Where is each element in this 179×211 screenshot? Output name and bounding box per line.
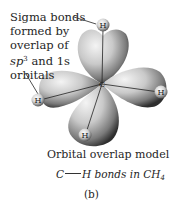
orbital-overlap-figure: H H H H C Sigma bonds formed by overlap … (0, 0, 179, 211)
bond-dash-icon (65, 173, 81, 174)
sigma-bond-annotation: Sigma bonds formed by overlap of sp3 and… (10, 10, 85, 82)
hydrogen-label-left: H (35, 96, 42, 105)
hydrogen-label-right: H (158, 88, 165, 97)
annotation-line-4-suffix: and 1s (28, 54, 70, 68)
panel-label: (b) (84, 188, 179, 200)
bond-description: H bonds in CH (82, 168, 160, 180)
carbon-label: C (99, 80, 105, 89)
bond-atom-c: C (56, 168, 64, 180)
annotation-line-4: sp3 and 1s (10, 52, 85, 68)
sp-term: sp (10, 54, 23, 68)
hydrogen-label-bottom: H (82, 131, 89, 140)
annotation-line-5: orbitals (10, 68, 85, 82)
annotation-line-2: formed by (10, 24, 85, 38)
caption-bond-formula: CH bonds in CH4 (56, 168, 179, 182)
caption-title: Orbital overlap model (47, 148, 179, 161)
formula-subscript: 4 (160, 174, 164, 182)
hydrogen-label-top: H (100, 21, 107, 30)
annotation-line-1: Sigma bonds (10, 10, 85, 24)
annotation-line-3: overlap of (10, 38, 85, 52)
